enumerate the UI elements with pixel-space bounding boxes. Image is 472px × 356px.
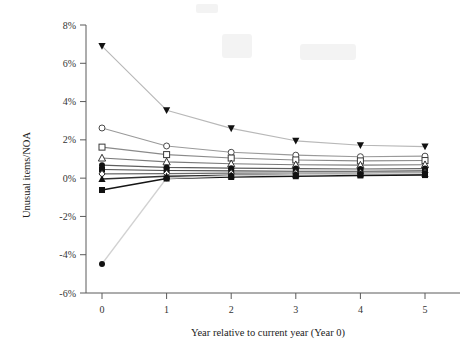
x-tick-label: 3 — [293, 304, 298, 315]
series-markers — [98, 43, 428, 267]
x-tick-layer: 012345 — [100, 293, 428, 315]
series-lines — [102, 46, 425, 264]
data-point-circle-filled — [293, 172, 299, 178]
y-tick-label: -6% — [59, 288, 76, 299]
data-point-circle-filled — [422, 170, 428, 176]
x-tick-label: 0 — [100, 304, 105, 315]
x-tick-label: 5 — [423, 304, 428, 315]
y-tick-label: 8% — [63, 20, 76, 31]
line-chart: -6%-4%-2%0%2%4%6%8% 012345 Unusual items… — [0, 0, 472, 356]
series-line — [102, 46, 425, 147]
x-tick-label: 2 — [229, 304, 234, 315]
y-axis-title: Unusual items/NOA — [21, 132, 32, 218]
data-point-square-open — [164, 152, 170, 158]
data-point-circle-filled — [228, 173, 234, 179]
chart-container: -6%-4%-2%0%2%4%6%8% 012345 Unusual items… — [0, 0, 472, 356]
x-tick-label: 1 — [164, 304, 169, 315]
data-point-square-open — [99, 144, 105, 150]
y-tick-label: -4% — [59, 249, 76, 260]
data-point-square-filled — [99, 187, 105, 193]
y-tick-label: 2% — [63, 134, 76, 145]
scan-artifacts — [196, 4, 356, 60]
y-tick-layer: -6%-4%-2%0%2%4%6%8% — [59, 20, 86, 299]
series-10 — [102, 173, 425, 264]
series-line — [102, 165, 425, 169]
data-point-circle-filled — [99, 261, 105, 267]
series-10-markers — [99, 170, 428, 267]
series-line — [102, 173, 425, 264]
data-point-circle-filled — [164, 175, 170, 181]
series-1 — [102, 46, 425, 147]
series-6 — [102, 170, 425, 172]
x-tick-label: 4 — [358, 304, 363, 315]
series-layer — [98, 43, 428, 267]
data-point-circle-open — [99, 125, 105, 131]
series-line — [102, 170, 425, 172]
data-point-circle-open — [164, 143, 170, 149]
data-point-circle-filled — [357, 171, 363, 177]
y-tick-label: -2% — [59, 211, 76, 222]
x-axis-title: Year relative to current year (Year 0) — [191, 327, 346, 339]
series-5 — [102, 165, 425, 169]
y-tick-label: 4% — [63, 96, 76, 107]
data-point-circle-open — [228, 149, 234, 155]
y-tick-label: 0% — [63, 173, 76, 184]
y-tick-label: 6% — [63, 58, 76, 69]
series-2-markers — [99, 125, 428, 160]
